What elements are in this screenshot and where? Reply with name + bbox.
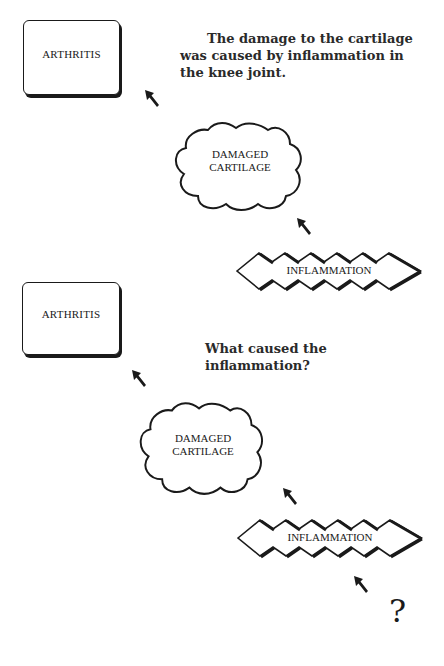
- arrow-up-left-icon: [130, 368, 150, 390]
- arthritis-box-bottom: ARTHRITIS: [22, 282, 120, 355]
- arrow-up-left-icon: [295, 216, 315, 238]
- arthritis-label-bottom: ARTHRITIS: [23, 308, 119, 320]
- zigzag-label-bottom: INFLAMMATION: [235, 531, 425, 544]
- cloud-label-line1: DAMAGED: [195, 148, 285, 161]
- cloud-label-line2: CARTILAGE: [158, 445, 248, 458]
- cloud-label-bottom: DAMAGED CARTILAGE: [158, 432, 248, 458]
- cloud-label-top: DAMAGED CARTILAGE: [195, 148, 285, 174]
- cloud-label-line1: DAMAGED: [158, 432, 248, 445]
- zigzag-label-top: INFLAMMATION: [234, 264, 424, 277]
- arrow-up-left-icon: [352, 574, 372, 596]
- arthritis-label-top: ARTHRITIS: [24, 48, 119, 60]
- arrow-up-left-icon: [281, 486, 301, 508]
- arrow-up-left-icon: [143, 88, 163, 110]
- caption-bottom: What caused the inflammation?: [205, 340, 435, 374]
- arthritis-box-top: ARTHRITIS: [23, 20, 120, 95]
- question-mark: ?: [389, 592, 406, 630]
- cloud-label-line2: CARTILAGE: [195, 161, 285, 174]
- caption-top: The damage to the cartilage was caused b…: [180, 30, 430, 81]
